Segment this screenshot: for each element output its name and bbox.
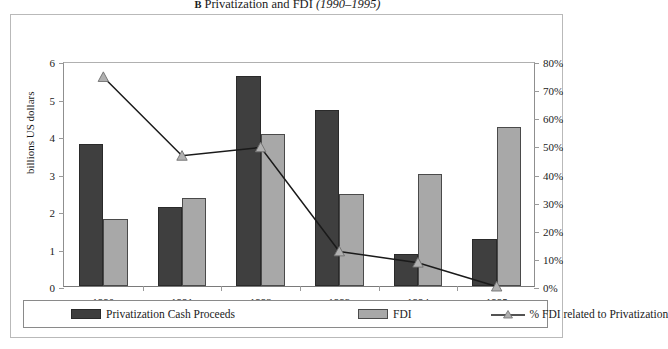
right-axis-tick [534,91,539,92]
left-axis-tick [59,101,64,102]
left-axis-tick-label: 0 [50,283,56,294]
left-axis-tick-label: 5 [50,96,56,107]
x-axis-tick [143,286,144,291]
x-axis-tick [457,286,458,291]
right-axis-tick [534,288,539,289]
line-series-overlay: % FDI related to Privatization 1990: 75%… [64,63,536,288]
chart-frame: billions US dollars 654321080%70%60%50%4… [10,14,563,338]
line-triangle-marker-icon [491,309,525,319]
left-axis-title: billions US dollars [25,91,36,174]
line-marker-1990: % FDI related to Privatization 1990: 75% [98,72,108,82]
right-axis-tick [534,147,539,148]
right-axis-tick-label: 80% [543,58,563,69]
bar-fdi-1990 [103,219,127,287]
left-axis-tick-label: 2 [50,208,56,219]
bar-privatization-cash-proceeds-1994 [394,254,418,286]
left-axis-tick [59,251,64,252]
right-axis-tick-label: 30% [543,199,563,210]
bar-fdi-1993 [339,194,363,286]
chart-legend: Privatization Cash Proceeds FDI % FDI re… [23,300,548,328]
right-axis-tick-label: 20% [543,227,563,238]
x-axis-tick [379,286,380,291]
figure-panel-label: B [194,0,201,10]
right-axis-tick [534,176,539,177]
legend-label-privatization-cash-proceeds: Privatization Cash Proceeds [106,308,235,320]
line-marker-1991: % FDI related to Privatization 1991: 47% [177,151,187,161]
bar-fdi-1995 [497,127,521,286]
right-axis-tick [534,260,539,261]
right-axis-tick-label: 50% [543,142,563,153]
legend-item-fdi[interactable]: FDI [358,308,412,320]
x-axis-tick [300,286,301,291]
bar-privatization-cash-proceeds-1991 [158,207,182,286]
left-axis-tick-label: 1 [50,246,56,257]
left-axis-tick [59,63,64,64]
legend-item-privatization-cash-proceeds[interactable]: Privatization Cash Proceeds [71,308,235,320]
bar-fdi-1992 [261,134,285,286]
left-axis-tick-label: 6 [50,58,56,69]
dark-square-swatch-icon [71,309,101,319]
left-axis-tick-label: 3 [50,171,56,182]
legend-label-fdi: FDI [393,308,412,320]
left-axis-tick [59,288,64,289]
x-axis-tick [221,286,222,291]
right-axis-tick-label: 70% [543,86,563,97]
right-axis-tick [534,204,539,205]
bar-privatization-cash-proceeds-1993 [315,110,339,286]
figure-title-text: Privatization and FDI [204,0,312,11]
bar-fdi-1991 [182,198,206,286]
right-axis-tick [534,232,539,233]
plot-inner: 654321080%70%60%50%40%30%20%10%0%1990199… [64,63,534,286]
right-axis-tick-label: 10% [543,255,563,266]
right-axis-tick-label: 40% [543,171,563,182]
light-square-swatch-icon [358,309,388,319]
bar-fdi-1994 [418,174,442,287]
plot-area: 654321080%70%60%50%40%30%20%10%0%1990199… [63,62,535,287]
right-axis-tick [534,119,539,120]
left-axis-tick [59,176,64,177]
right-axis-tick-label: 0% [543,283,558,294]
legend-label-pct-fdi-related-to-privatization: % FDI related to Privatization [530,308,668,320]
right-axis-tick [534,63,539,64]
figure-title-period: (1990–1995) [316,0,381,11]
legend-item-pct-fdi-related-to-privatization[interactable]: % FDI related to Privatization [491,308,668,320]
bar-privatization-cash-proceeds-1995 [472,239,496,286]
right-axis-tick-label: 60% [543,114,563,125]
figure-title: BPrivatization and FDI (1990–1995) [0,0,575,12]
bar-privatization-cash-proceeds-1990 [79,144,103,287]
bar-privatization-cash-proceeds-1992 [236,76,260,286]
left-axis-tick-label: 4 [50,133,56,144]
left-axis-tick [59,213,64,214]
left-axis-tick [59,138,64,139]
